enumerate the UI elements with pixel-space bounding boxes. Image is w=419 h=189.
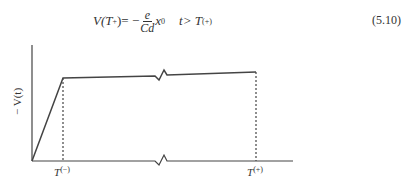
y-axis-label: − V(t)	[11, 88, 24, 115]
t-plus-label: T(+)	[247, 165, 263, 178]
t-minus-label: T(−)	[54, 165, 70, 178]
chart: − V(t) T(−) T(+)	[0, 0, 419, 189]
voltage-curve	[32, 70, 256, 161]
x-axis	[32, 155, 293, 165]
